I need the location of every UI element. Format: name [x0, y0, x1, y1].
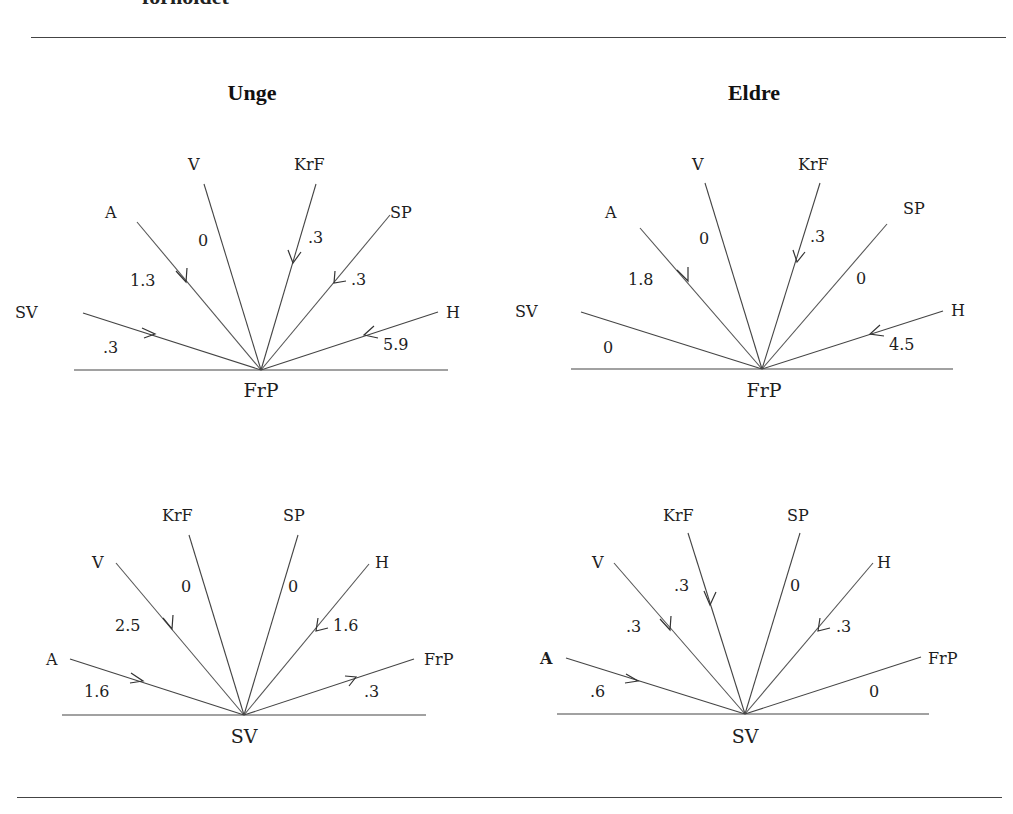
spoke-value: 0 [790, 576, 800, 595]
spoke-value: 0 [603, 338, 613, 357]
center-party-label: FrP [243, 379, 278, 401]
spoke-frp [244, 659, 414, 715]
spoke-value: 1.6 [333, 616, 358, 635]
spoke-value: .3 [836, 617, 851, 636]
spoke-value: .3 [810, 227, 825, 246]
center-party-label: SV [231, 725, 258, 747]
spoke-h [244, 564, 369, 715]
arrow-icon [677, 267, 688, 281]
spoke-value: .6 [590, 682, 605, 701]
spoke-value: .3 [364, 682, 379, 701]
diagram-eldre-sv: A .6 V .3 KrF .3 SP 0 H .3 FrP 0 SV [539, 506, 958, 747]
spoke-value: 0 [856, 269, 866, 288]
spoke-value: 0 [288, 577, 298, 596]
spoke-sp [244, 535, 298, 715]
party-label: A [45, 650, 58, 669]
spoke-value: .3 [674, 576, 689, 595]
spoke-sp [261, 215, 390, 370]
spoke-frp [745, 657, 921, 714]
spoke-value: 0 [869, 682, 879, 701]
party-label: V [91, 553, 104, 572]
spoke-value: .3 [351, 270, 366, 289]
party-label: V [591, 553, 604, 572]
spoke-sp [745, 533, 800, 714]
spoke-value: .3 [103, 338, 118, 357]
spoke-value: 1.8 [628, 270, 653, 289]
diagram-eldre-frp: SV 0 A 1.8 V 0 KrF .3 SP 0 H 4.5 FrP [515, 155, 965, 401]
spoke-v [705, 183, 762, 369]
party-label: A [604, 203, 617, 222]
diagram-unge-frp: SV .3 A 1.3 V 0 KrF .3 SP .3 H 5.9 FrP [15, 155, 460, 401]
center-party-label: FrP [746, 379, 781, 401]
party-label: V [691, 155, 704, 174]
spoke-value: 1.6 [84, 682, 109, 701]
party-label: SP [390, 203, 412, 222]
spoke-a [640, 228, 762, 369]
spoke-krf [261, 184, 316, 370]
spoke-v [116, 563, 244, 715]
spoke-krf [762, 183, 820, 369]
spoke-krf [688, 533, 745, 714]
spoke-value: 1.3 [130, 271, 155, 290]
spoke-value: .3 [626, 617, 641, 636]
spoke-krf [189, 535, 244, 715]
party-label: SP [283, 506, 305, 525]
spoke-value: 0 [699, 229, 709, 248]
diagram-unge-sv: A 1.6 V 2.5 KrF 0 SP 0 H 1.6 FrP .3 SV [45, 506, 454, 747]
party-label: V [187, 155, 200, 174]
center-party-label: SV [732, 725, 759, 747]
spoke-value: .3 [308, 228, 323, 247]
party-label: H [375, 553, 389, 572]
spoke-value: 0 [198, 231, 208, 250]
spoke-value: 2.5 [115, 616, 140, 635]
spoke-value: 4.5 [889, 335, 914, 354]
party-label: KrF [798, 155, 829, 174]
arrow-icon [130, 673, 143, 683]
party-label: SP [903, 199, 925, 218]
spoke-value: 0 [181, 577, 191, 596]
party-label: SP [787, 506, 809, 525]
spoke-h [762, 311, 943, 369]
arrow-icon [818, 618, 830, 631]
spoke-v [204, 184, 261, 370]
party-label: SV [15, 303, 38, 322]
party-label: KrF [162, 506, 193, 525]
party-label: H [877, 553, 891, 572]
party-label: KrF [663, 506, 694, 525]
preference-diagrams: SV .3 A 1.3 V 0 KrF .3 SP .3 H 5.9 FrP S… [0, 0, 1013, 814]
party-label: KrF [294, 155, 325, 174]
party-label: H [951, 301, 965, 320]
party-label: FrP [928, 649, 958, 668]
arrow-icon [163, 615, 173, 629]
spoke-value: 5.9 [383, 335, 408, 354]
party-label: A [539, 649, 553, 668]
party-label: H [446, 303, 460, 322]
party-label: FrP [424, 650, 454, 669]
party-label: A [104, 203, 117, 222]
spoke-h [261, 312, 438, 370]
arrow-icon [334, 271, 346, 283]
party-label: SV [515, 302, 538, 321]
spoke-h [745, 563, 873, 714]
